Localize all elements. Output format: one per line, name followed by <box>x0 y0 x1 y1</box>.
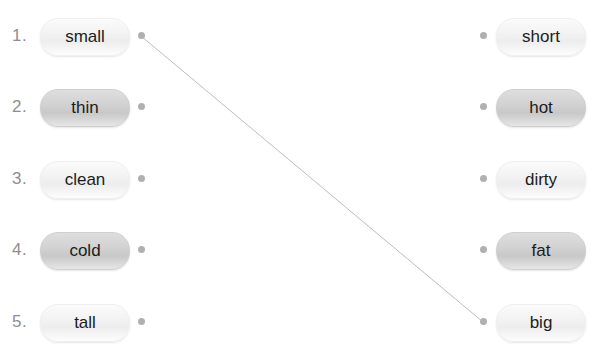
right-option-hot[interactable]: hot <box>496 89 586 127</box>
row-number: 1. <box>12 14 36 58</box>
row-number: 3. <box>12 157 36 201</box>
left-connector-dot-clean[interactable] <box>138 175 145 182</box>
matching-row: 2.thinhot <box>0 85 602 129</box>
row-number: 4. <box>12 228 36 272</box>
right-connector-dot-fat[interactable] <box>480 246 487 253</box>
left-connector-dot-cold[interactable] <box>138 246 145 253</box>
left-option-cold[interactable]: cold <box>40 232 130 270</box>
right-connector-dot-hot[interactable] <box>480 103 487 110</box>
right-option-big[interactable]: big <box>496 304 586 342</box>
matching-row: 3.cleandirty <box>0 157 602 201</box>
right-option-short[interactable]: short <box>496 18 586 56</box>
left-connector-dot-thin[interactable] <box>138 103 145 110</box>
row-number: 5. <box>12 300 36 344</box>
left-option-thin[interactable]: thin <box>40 89 130 127</box>
right-option-dirty[interactable]: dirty <box>496 161 586 199</box>
matching-row: 4.coldfat <box>0 228 602 272</box>
left-connector-dot-small[interactable] <box>138 32 145 39</box>
left-option-small[interactable]: small <box>40 18 130 56</box>
matching-row: 5.tallbig <box>0 300 602 344</box>
right-connector-dot-dirty[interactable] <box>480 175 487 182</box>
left-option-clean[interactable]: clean <box>40 161 130 199</box>
right-connector-dot-big[interactable] <box>480 318 487 325</box>
row-number: 2. <box>12 85 36 129</box>
right-connector-dot-short[interactable] <box>480 32 487 39</box>
left-connector-dot-tall[interactable] <box>138 318 145 325</box>
matching-row: 1.smallshort <box>0 14 602 58</box>
matching-exercise: 1.smallshort2.thinhot3.cleandirty4.coldf… <box>0 0 602 348</box>
right-option-fat[interactable]: fat <box>496 232 586 270</box>
left-option-tall[interactable]: tall <box>40 304 130 342</box>
